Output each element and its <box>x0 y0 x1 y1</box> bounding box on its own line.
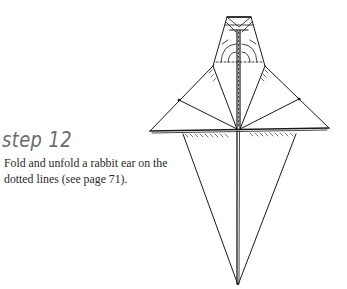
shading-hatches <box>185 70 293 137</box>
center-crease <box>237 30 240 129</box>
head-section <box>213 17 265 66</box>
origami-diagram <box>0 0 347 289</box>
lower-kite-flap <box>183 131 296 285</box>
